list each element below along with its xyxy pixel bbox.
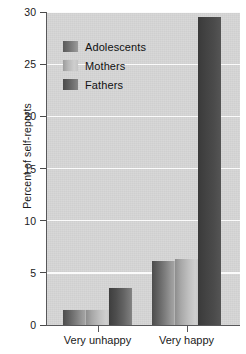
y-axis-tick-label: 20 [24,110,36,122]
y-axis-tick-mark [40,168,46,169]
bar-chart: Percent of self-reports 302520151050 Ver… [0,0,246,354]
bar-fathers-very-happy [198,17,221,325]
y-axis-tick-label: 25 [24,58,36,70]
bar-mothers-very-unhappy [86,310,109,325]
y-axis-tick-label: 30 [24,6,36,18]
bar-mothers-very-happy [175,259,198,325]
legend-item-mothers: Mothers [63,57,146,74]
legend-swatch-adolescents-icon [63,41,78,52]
y-axis-tick-mark [40,12,46,13]
legend-swatch-mothers-icon [63,60,78,71]
y-axis-tick-mark [40,272,46,273]
y-axis-tick-label: 15 [24,163,36,175]
x-axis-tick-mark [187,326,188,332]
y-axis-tick-label: 10 [24,215,36,227]
y-axis-tick-mark [40,220,46,221]
x-axis-line [46,325,240,326]
x-axis-tick-mark [98,326,99,332]
legend-item-label: Adolescents [85,41,146,53]
y-axis-tick-mark [40,64,46,65]
x-axis-tick-label: Very unhappy [64,334,131,346]
bar-fathers-very-unhappy [109,288,132,325]
x-axis-tick-label: Very happy [159,334,214,346]
y-axis-tick-label: 5 [30,267,36,279]
legend-item-label: Fathers [85,79,123,91]
y-axis-tick-mark [40,325,46,326]
y-axis-tick-group: 302520151050 [0,0,47,354]
chart-legend: AdolescentsMothersFathers [63,38,146,95]
y-axis-tick-label: 0 [30,319,36,331]
legend-item-label: Mothers [85,60,125,72]
legend-item-fathers: Fathers [63,76,146,93]
bar-adolescents-very-unhappy [63,310,86,325]
bar-adolescents-very-happy [152,261,175,325]
gridline [47,12,240,13]
legend-item-adolescents: Adolescents [63,38,146,55]
legend-swatch-fathers-icon [63,79,78,90]
y-axis-tick-mark [40,116,46,117]
